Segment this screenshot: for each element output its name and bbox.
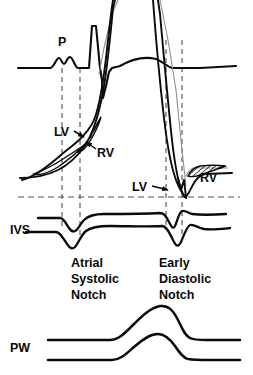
ivs-lower-trace (26, 225, 230, 249)
atrial-notch-label-line1: Atrial (71, 256, 103, 270)
pw-label: PW (10, 341, 30, 355)
lv-lower-label: LV (132, 180, 148, 194)
pw-lower-trace (48, 334, 240, 360)
ecg-trace-group (18, 26, 236, 98)
ghost-trace-group (99, 0, 228, 186)
p-wave-label: P (58, 35, 66, 49)
atrial-notch-label-line3: Notch (71, 288, 106, 302)
atrial-notch-label-line2: Systolic (71, 272, 119, 286)
cardiac-tracing-figure: P LV RV LV RV IVS PW Atrial Systolic Not… (0, 0, 253, 375)
ivs-trace-group (26, 211, 230, 249)
ecg-trace (18, 26, 236, 98)
early-notch-label-line3: Notch (159, 288, 194, 302)
timing-lines-group (18, 40, 240, 236)
lv-upper-label: LV (54, 125, 70, 139)
pw-trace-group (48, 306, 240, 360)
tracing-canvas: P LV RV LV RV IVS PW Atrial Systolic Not… (0, 0, 253, 375)
ivs-upper-trace (38, 211, 226, 232)
early-notch-label-line1: Early (159, 256, 190, 270)
ivs-label: IVS (10, 223, 30, 237)
lv-upper-leader (74, 131, 84, 137)
early-notch-label-line2: Diastolic (159, 272, 211, 286)
rv-upper-label: RV (97, 146, 115, 160)
pw-upper-trace (48, 306, 240, 340)
rv-lower-label: RV (200, 171, 218, 185)
